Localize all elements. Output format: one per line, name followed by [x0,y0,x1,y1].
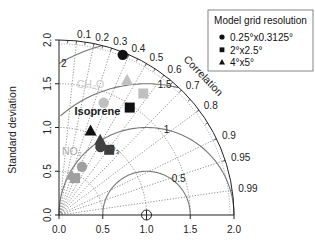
correlation-tick-label: 0.1 [77,29,91,40]
circle-marker-icon [118,50,128,60]
correlation-tick-label: 0.95 [231,152,251,163]
y-tick-label: 2.0 [42,33,53,47]
species-label: Isoprene [75,105,121,117]
legend-entry-label: 0.25°x0.3125° [230,32,293,43]
legend-entry-label: 4°x5° [230,57,254,68]
legend-circle-icon [219,34,224,39]
correlation-minor-tick [136,59,137,62]
square-marker-icon [138,88,148,98]
correlation-tick-label: 0.3 [113,36,127,47]
species-label: NO₂ [62,145,82,157]
x-tick-label: 0.5 [96,224,110,235]
correlation-tick-label: 0.7 [186,80,200,91]
correlation-tick-label: 0.99 [238,183,258,194]
correlation-minor-tick [162,75,164,77]
square-marker-icon [125,103,135,113]
correlation-tick-label: 0.5 [150,52,164,63]
correlation-tick-label: 0.6 [168,64,182,75]
correlation-minor-tick [179,90,181,92]
correlation-tick-label: 0.4 [131,43,145,54]
x-tick-label: 2.0 [227,224,241,235]
correlation-minor-tick [222,160,225,161]
rms-arc-label: 1.5 [158,79,172,90]
correlation-minor-tick [128,55,129,58]
correlation-tick-label: 0.9 [222,130,236,141]
y-tick-label: 0.0 [42,208,53,222]
rms-arc-label: 0.5 [172,173,186,184]
correlation-minor-tick [102,46,103,49]
correlation-ray [59,48,112,215]
triangle-marker-icon [121,74,133,85]
legend: Model grid resolution 0.25°x0.3125° 2°x2… [208,10,313,71]
legend-entry-label: 2°x2.5° [230,45,262,56]
correlation-minor-tick [197,110,199,112]
species-label: O₃ [107,143,119,155]
legend-title: Model grid resolution [214,15,307,26]
correlation-tick-label: 0.2 [95,32,109,43]
x-tick-label: 0.0 [52,224,66,235]
species-label: CH₂O [77,78,104,90]
correlation-tick-label: 0.8 [204,100,218,111]
correlation-minor-tick [145,63,147,66]
correlation-minor-tick [214,139,217,140]
correlation-minor-tick [111,48,112,51]
triangle-marker-icon [85,125,97,136]
y-axis-label: Standard deviation [6,86,18,174]
correlation-minor-tick [205,123,208,125]
rms-arc-label: 1 [164,124,170,135]
y-tick-label: 1.0 [42,120,53,134]
x-tick-label: 1.0 [140,224,154,235]
correlation-minor-tick [93,44,94,47]
y-tick-label: 0.5 [42,164,53,178]
correlation-minor-tick [188,99,190,101]
correlation-minor-tick [154,69,156,72]
taylor-diagram: 0.511.520.00.00.50.51.01.01.51.52.02.00.… [0,0,315,251]
x-tick-label: 1.5 [183,224,197,235]
circle-marker-icon [77,162,87,172]
y-tick-label: 1.5 [42,76,53,90]
rms-arc-label: 2 [61,58,67,69]
legend-square-icon [220,47,225,52]
